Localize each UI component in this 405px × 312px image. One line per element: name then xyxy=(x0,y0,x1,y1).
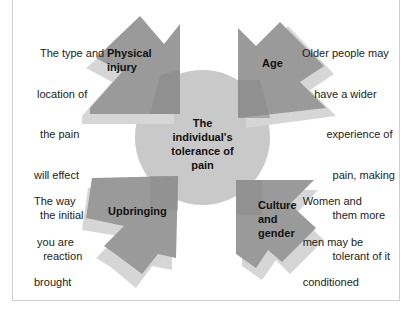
center-label: The individual's tolerance of pain xyxy=(150,116,255,172)
label-physical-injury: Physical injury xyxy=(107,46,152,74)
desc-line: you are xyxy=(34,236,125,250)
desc-line: Older people may xyxy=(302,47,395,61)
center-line-1: The xyxy=(150,116,255,130)
desc-line: The type and xyxy=(34,47,104,61)
label-line: injury xyxy=(107,60,152,74)
desc-line: brought xyxy=(34,276,125,290)
desc-line: have a wider xyxy=(302,88,395,102)
desc-line: location of xyxy=(34,88,104,102)
label-age: Age xyxy=(262,56,283,70)
desc-line: men may be xyxy=(266,236,365,250)
desc-line: the pain xyxy=(34,128,104,142)
center-line-3: tolerance of xyxy=(150,144,255,158)
label-line: Physical xyxy=(107,46,152,60)
desc-line: The way xyxy=(34,195,125,209)
center-line-2: individual's xyxy=(150,130,255,144)
desc-line: Women and xyxy=(266,195,365,209)
desc-line: conditioned xyxy=(266,276,365,290)
label-line: Age xyxy=(262,56,283,70)
description-upbringing: The way you are brought up to react to p… xyxy=(34,168,125,312)
desc-line: experience of xyxy=(302,128,395,142)
label-line: and xyxy=(258,212,297,226)
description-culture-gender: Women and men may be conditioned to show… xyxy=(296,168,365,312)
center-line-4: pain xyxy=(150,158,255,172)
